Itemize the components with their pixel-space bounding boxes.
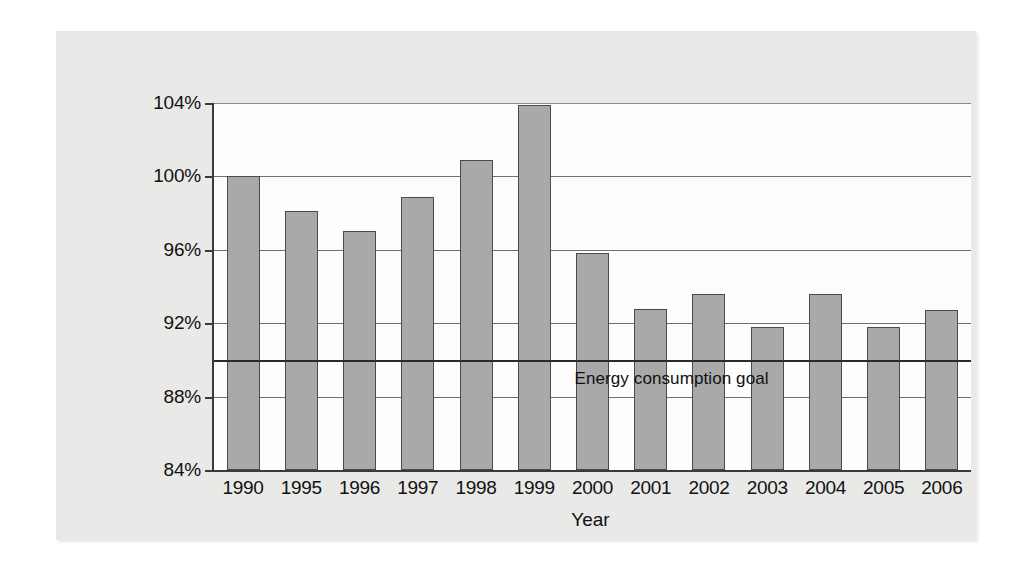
x-axis-tick-label: 2005 [863, 477, 904, 499]
y-axis-tick [205, 103, 214, 105]
bar [634, 309, 667, 470]
plot-area: 84%88%92%96%100%104% Energy consumption … [212, 103, 971, 472]
x-axis-tick-label: 2002 [688, 477, 729, 499]
bar [227, 176, 260, 470]
bar [285, 211, 318, 470]
goal-line-label: Energy consumption goal [575, 369, 769, 389]
y-axis-tick [205, 397, 214, 399]
x-axis-tick-label: 2004 [805, 477, 846, 499]
bar [518, 105, 551, 470]
x-axis-tick-label: 2001 [630, 477, 671, 499]
chart-figure: 84%88%92%96%100%104% Energy consumption … [0, 0, 1029, 575]
x-axis-tick-label: 1998 [455, 477, 496, 499]
chart-panel: 84%88%92%96%100%104% Energy consumption … [56, 31, 976, 540]
y-axis-tick [205, 176, 214, 178]
y-axis-tick-label: 96% [164, 239, 201, 261]
y-axis-tick [205, 323, 214, 325]
bar [460, 160, 493, 470]
y-axis-tick-label: 100% [153, 165, 201, 187]
gridline [214, 103, 971, 104]
x-axis-tick-label: 1999 [514, 477, 555, 499]
bar [401, 197, 434, 470]
x-axis-tick-label: 1996 [339, 477, 380, 499]
y-axis-tick-label: 84% [164, 459, 201, 481]
x-axis-tick-label: 2003 [747, 477, 788, 499]
x-axis-tick-label: 2006 [921, 477, 962, 499]
y-axis-tick [205, 250, 214, 252]
x-axis-tick-label: 1997 [397, 477, 438, 499]
x-axis-tick-label: 1990 [223, 477, 264, 499]
bar [343, 231, 376, 470]
bar [925, 310, 958, 470]
gridline [214, 176, 971, 177]
bar [867, 327, 900, 470]
y-axis-tick-label: 92% [164, 312, 201, 334]
x-axis-tick-label: 2000 [572, 477, 613, 499]
bar [809, 294, 842, 470]
y-axis-tick-label: 88% [164, 386, 201, 408]
x-axis-title: Year [212, 509, 969, 531]
goal-line [214, 360, 971, 362]
bar [751, 327, 784, 470]
y-axis-tick [205, 470, 214, 472]
y-axis-tick-label: 104% [153, 92, 201, 114]
gridline [214, 250, 971, 251]
x-axis-tick-label: 1995 [281, 477, 322, 499]
